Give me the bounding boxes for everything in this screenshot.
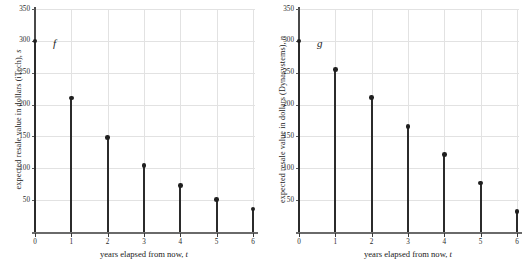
data-point[interactable] [251, 207, 256, 212]
gridline-vertical [517, 9, 518, 232]
x-tick-label: 2 [362, 238, 382, 246]
x-tick-mark [444, 233, 445, 237]
data-stem [216, 200, 218, 232]
y-tick-mark [296, 9, 299, 10]
x-tick-mark [144, 233, 145, 237]
x-axis-title-text: years elapsed from now, [100, 249, 186, 259]
chart-panel-dynasystems: 501001502002503003500123456gexpected res… [264, 0, 528, 267]
gridline-vertical [253, 9, 254, 232]
y-axis-title: expected resale value in dollars (Dynasy… [278, 3, 292, 236]
y-axis-variable: s [14, 50, 23, 53]
data-stem [480, 183, 482, 232]
x-tick-label: 6 [243, 238, 263, 246]
x-tick-label: 5 [471, 238, 491, 246]
data-stem [107, 138, 109, 232]
data-point[interactable] [297, 39, 302, 44]
x-tick-label: 3 [134, 238, 154, 246]
x-tick-label: 4 [434, 238, 454, 246]
x-tick-label: 0 [289, 238, 309, 246]
data-stem [252, 209, 254, 232]
data-stem [70, 98, 72, 232]
x-tick-label: 2 [98, 238, 118, 246]
x-tick-mark [481, 233, 482, 237]
x-axis-line [32, 232, 258, 234]
x-tick-label: 4 [170, 238, 190, 246]
gridline-horizontal [299, 168, 519, 169]
data-point[interactable] [442, 152, 447, 157]
function-label: g [317, 37, 323, 49]
data-point[interactable] [214, 197, 219, 202]
x-tick-mark [108, 233, 109, 237]
data-point[interactable] [478, 181, 483, 186]
data-point[interactable] [178, 183, 183, 188]
data-point[interactable] [33, 39, 38, 44]
data-stem [407, 126, 409, 232]
data-point[interactable] [333, 67, 338, 72]
data-point[interactable] [105, 135, 110, 140]
x-tick-mark [335, 233, 336, 237]
x-tick-mark [372, 233, 373, 237]
gridline-horizontal [35, 200, 255, 201]
gridline-horizontal [299, 73, 519, 74]
gridline-horizontal [299, 136, 519, 137]
x-tick-label: 1 [61, 238, 81, 246]
x-tick-mark [517, 233, 518, 237]
x-tick-label: 0 [25, 238, 45, 246]
x-tick-mark [299, 233, 300, 237]
x-tick-label: 3 [398, 238, 418, 246]
chart-panel-itech: 501001502002503003500123456fexpected res… [0, 0, 264, 267]
gridline-horizontal [299, 41, 519, 42]
gridline-horizontal [299, 105, 519, 106]
y-axis-title-text: expected resale value in dollars (iTech)… [14, 53, 23, 190]
data-point[interactable] [69, 96, 74, 101]
function-label: f [53, 37, 56, 49]
x-tick-mark [71, 233, 72, 237]
x-axis-title: years elapsed from now, t [31, 249, 257, 259]
x-tick-mark [217, 233, 218, 237]
data-stem [298, 41, 300, 232]
x-tick-label: 1 [325, 238, 345, 246]
data-stem [34, 41, 36, 232]
y-axis-title: expected resale value in dollars (iTech)… [14, 3, 28, 236]
x-tick-mark [35, 233, 36, 237]
figure-two-panel-charts: 501001502002503003500123456fexpected res… [0, 0, 529, 267]
gridline-horizontal [299, 9, 519, 10]
data-stem [516, 212, 518, 232]
x-tick-mark [253, 233, 254, 237]
data-stem [179, 185, 181, 232]
gridline-horizontal [299, 200, 519, 201]
x-axis-title-text: years elapsed from now, [364, 249, 450, 259]
gridline-horizontal [35, 41, 255, 42]
gridline-horizontal [35, 73, 255, 74]
data-stem [443, 154, 445, 232]
data-point[interactable] [369, 95, 374, 100]
data-stem [371, 98, 373, 232]
gridline-horizontal [35, 136, 255, 137]
x-tick-label: 5 [207, 238, 227, 246]
gridline-horizontal [35, 105, 255, 106]
data-stem [334, 70, 336, 232]
y-axis-variable: n [278, 36, 287, 40]
data-point[interactable] [515, 209, 520, 214]
x-axis-line [296, 232, 522, 234]
x-tick-mark [408, 233, 409, 237]
gridline-horizontal [35, 9, 255, 10]
y-tick-mark [32, 9, 35, 10]
y-axis-title-text: expected resale value in dollars (Dynasy… [278, 40, 287, 203]
data-stem [143, 166, 145, 232]
data-point[interactable] [406, 124, 411, 129]
x-tick-label: 6 [507, 238, 527, 246]
x-axis-variable: t [186, 249, 188, 259]
x-axis-variable: t [450, 249, 452, 259]
gridline-horizontal [35, 168, 255, 169]
x-axis-title: years elapsed from now, t [295, 249, 521, 259]
x-tick-mark [180, 233, 181, 237]
